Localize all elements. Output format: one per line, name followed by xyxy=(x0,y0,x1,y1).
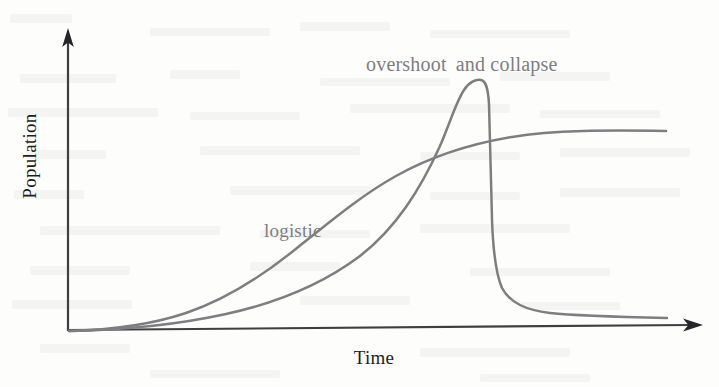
curve-logistic xyxy=(69,131,666,331)
annotation-overshoot-word-2: and collapse xyxy=(456,53,558,75)
annotation-overshoot-and-collapse: overshootand collapse xyxy=(366,53,558,76)
curves-group xyxy=(69,80,667,331)
annotation-overshoot-word-1: overshoot xyxy=(366,53,447,75)
x-axis-label: Time xyxy=(322,347,426,369)
annotation-logistic: logistic xyxy=(264,220,322,242)
y-axis-label: Population xyxy=(19,104,41,208)
curve-overshoot-collapse xyxy=(69,80,667,331)
population-growth-figure: Population Time overshootand collapse lo… xyxy=(0,0,719,387)
